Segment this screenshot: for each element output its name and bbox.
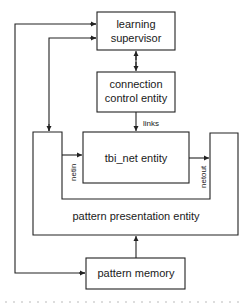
- block-diagram: learning supervisor connection control e…: [0, 0, 250, 306]
- links-label: links: [143, 119, 159, 128]
- tbi-net-entity-label: tbi_net entity: [105, 152, 168, 164]
- netin-label: netin: [69, 164, 78, 181]
- connection-control-label-1: connection: [109, 78, 162, 90]
- pattern-memory-label: pattern memory: [97, 267, 175, 279]
- learning-supervisor-label-1: learning: [116, 18, 155, 30]
- supervisor-presentation-loop: [49, 38, 96, 131]
- netout-label: netout: [199, 165, 208, 188]
- connection-control-label-2: control entity: [105, 92, 168, 104]
- pattern-presentation-entity-label: pattern presentation entity: [72, 210, 200, 222]
- learning-supervisor-label-2: supervisor: [111, 32, 162, 44]
